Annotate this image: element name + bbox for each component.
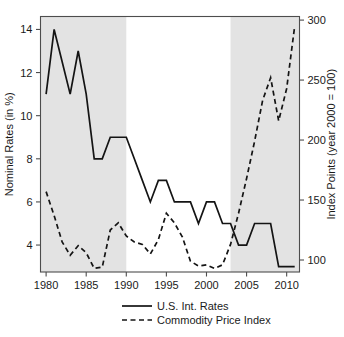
- y-axis-left-label: Nominal Rates (in %): [3, 92, 15, 196]
- shaded-band-1: [231, 17, 300, 273]
- y-axis-left-title: Nominal Rates (in %): [3, 92, 15, 196]
- y-axis-right-ticks: 100150200250300: [300, 14, 326, 266]
- y-tick-label-8: 8: [26, 153, 32, 165]
- y-tick-label-4: 4: [26, 239, 32, 251]
- x-tick-label-1990: 1990: [114, 279, 138, 291]
- y-tick-label-10: 10: [20, 110, 32, 122]
- y-axis-left-ticks: 468101214: [20, 23, 40, 251]
- y-tick-label-6: 6: [26, 196, 32, 208]
- shaded-band-0: [41, 17, 127, 273]
- x-tick-label-2010: 2010: [274, 279, 298, 291]
- y2-tick-label-300: 300: [308, 14, 326, 26]
- x-tick-label-1995: 1995: [154, 279, 178, 291]
- y2-tick-label-100: 100: [308, 254, 326, 266]
- y-tick-label-14: 14: [20, 23, 32, 35]
- y2-tick-label-150: 150: [308, 194, 326, 206]
- y-tick-label-12: 12: [20, 67, 32, 79]
- x-tick-label-1985: 1985: [74, 279, 98, 291]
- y-axis-right-title: Index Points (year 2000 = 100): [325, 69, 337, 220]
- x-tick-label-1980: 1980: [34, 279, 58, 291]
- chart-legend: U.S. Int. RatesCommodity Price Index: [122, 300, 271, 326]
- x-tick-label-2005: 2005: [234, 279, 258, 291]
- legend-label-commodity-price-index: Commodity Price Index: [157, 314, 271, 326]
- x-axis-ticks: 1980198519901995200020052010: [34, 272, 299, 291]
- y2-tick-label-200: 200: [308, 134, 326, 146]
- y-axis-right-label: Index Points (year 2000 = 100): [325, 69, 337, 220]
- y2-tick-label-250: 250: [308, 74, 326, 86]
- chart-figure: 1980198519901995200020052010 468101214 1…: [0, 0, 344, 337]
- dual-axis-line-chart: 1980198519901995200020052010 468101214 1…: [0, 0, 344, 337]
- x-tick-label-2000: 2000: [194, 279, 218, 291]
- legend-label-u-s-int-rates: U.S. Int. Rates: [157, 300, 229, 312]
